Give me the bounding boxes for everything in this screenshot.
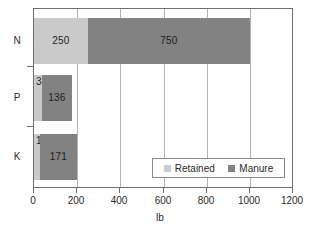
x-tick-0 <box>33 188 34 193</box>
x-tick-600 <box>163 188 164 193</box>
bar-value-k-manure: 171 <box>50 152 67 162</box>
x-tick-label-400: 400 <box>99 195 139 206</box>
x-axis-title: lb <box>0 212 320 223</box>
bar-segment-k-manure: 171 <box>40 134 77 180</box>
y-tick-p-k <box>27 126 33 127</box>
category-label-k: K <box>10 151 24 162</box>
x-tick-label-800: 800 <box>186 195 226 206</box>
x-tick-1000 <box>249 188 250 193</box>
bar-segment-p-manure: 136 <box>42 75 72 121</box>
bar-value-n-retained: 250 <box>52 36 69 46</box>
x-tick-800 <box>206 188 207 193</box>
bar-value-n-manure: 750 <box>160 36 177 46</box>
legend-swatch-retained-icon <box>164 165 171 172</box>
x-tick-label-1000: 1000 <box>229 195 269 206</box>
legend-swatch-manure-icon <box>228 165 235 172</box>
category-label-p: P <box>10 92 24 103</box>
x-tick-label-200: 200 <box>56 195 96 206</box>
legend-label-retained: Retained <box>175 163 215 174</box>
y-tick-n-p <box>27 66 33 67</box>
bar-chart: 250 750 34 136 19 171 N P <box>0 0 320 235</box>
legend-item-manure: Manure <box>228 163 273 174</box>
x-tick-label-1200: 1200 <box>272 195 312 206</box>
legend-item-retained: Retained <box>164 163 215 174</box>
bar-segment-n-retained: 250 <box>34 18 88 64</box>
x-tick-400 <box>119 188 120 193</box>
legend: Retained Manure <box>152 158 285 178</box>
category-label-n: N <box>10 35 24 46</box>
x-tick-label-0: 0 <box>13 195 53 206</box>
legend-label-manure: Manure <box>239 163 273 174</box>
x-tick-200 <box>76 188 77 193</box>
bar-value-p-manure: 136 <box>48 93 65 103</box>
x-tick-1200 <box>292 188 293 193</box>
x-tick-label-600: 600 <box>143 195 183 206</box>
bar-segment-n-manure: 750 <box>88 18 250 64</box>
bar-segment-p-retained: 34 <box>34 75 42 121</box>
